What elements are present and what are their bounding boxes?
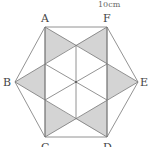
label-B: B bbox=[3, 76, 11, 89]
hexagon-star-diagram: 10cm A F B E C D bbox=[0, 0, 148, 147]
label-E: E bbox=[140, 76, 148, 89]
label-A: A bbox=[40, 12, 50, 25]
label-C: C bbox=[41, 141, 49, 147]
top-caption: 10cm bbox=[98, 0, 121, 9]
label-D: D bbox=[103, 141, 112, 147]
label-F: F bbox=[103, 12, 111, 25]
